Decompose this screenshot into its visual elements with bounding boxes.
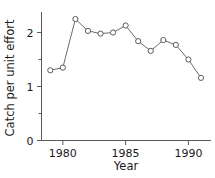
y-tick-label-0: 0	[27, 135, 34, 148]
axes	[42, 12, 212, 141]
data-point-1983	[98, 31, 103, 36]
data-point-1991	[198, 75, 203, 80]
x-tick-label-1985: 1985	[112, 147, 140, 160]
data-point-1986	[136, 39, 141, 44]
line-chart: Catch per unit effort Year 012 198019851…	[0, 0, 215, 178]
data-point-1984	[110, 30, 115, 35]
data-point-group	[48, 16, 204, 80]
data-point-1982	[85, 28, 90, 33]
x-tick-label-group: 198019851990	[49, 147, 203, 160]
data-point-1987	[148, 48, 153, 53]
x-tick-label-1990: 1990	[174, 147, 202, 160]
data-point-1990	[186, 57, 191, 62]
data-point-1979	[48, 68, 53, 73]
y-tick-label-group: 012	[27, 27, 34, 148]
x-tick-label-1980: 1980	[49, 147, 77, 160]
data-point-1980	[60, 65, 65, 70]
x-tick-group	[63, 141, 189, 146]
data-point-1985	[123, 23, 128, 28]
y-tick-label-2: 2	[27, 27, 34, 40]
data-point-1981	[73, 16, 78, 21]
data-point-1989	[173, 42, 178, 47]
y-axis-title-text: Catch per unit effort	[3, 19, 17, 136]
y-tick-group	[37, 33, 42, 141]
x-axis-title: Year	[113, 159, 139, 173]
y-axis-title: Catch per unit effort	[3, 19, 17, 136]
chart-container: Catch per unit effort Year 012 198019851…	[0, 0, 215, 178]
y-tick-label-1: 1	[27, 81, 34, 94]
x-axis-title-text: Year	[113, 159, 139, 173]
data-point-1988	[161, 37, 166, 42]
